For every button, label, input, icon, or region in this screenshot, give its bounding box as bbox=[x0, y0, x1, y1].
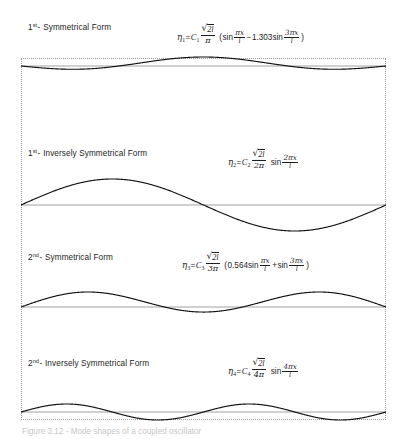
radical-sign-icon: √ bbox=[207, 252, 213, 261]
row-4-label-text: Inversely Symmetrical Form bbox=[45, 359, 149, 368]
row-2-dash: - bbox=[37, 149, 41, 158]
fraction-numerator-2a: 2πx bbox=[282, 154, 297, 162]
curve-path-1 bbox=[21, 57, 386, 69]
row-3-ordinal-suffix: nd bbox=[33, 252, 39, 258]
row-4-dash: - bbox=[39, 359, 43, 368]
row-label-4: 2nd- Inversely Symmetrical Form bbox=[28, 358, 149, 368]
radical-sign-icon: √ bbox=[202, 24, 208, 33]
mode-shape-curve-2 bbox=[21, 168, 386, 244]
trig-fn-4a: sin bbox=[271, 367, 281, 376]
row-label-2: 1st- Inversely Symmetrical Form bbox=[28, 148, 147, 158]
radicand-1: 2l bbox=[207, 24, 215, 34]
fraction-denominator-1: π bbox=[201, 35, 216, 45]
mode-shape-curve-4 bbox=[21, 392, 386, 432]
radical-4: √2l bbox=[253, 358, 266, 368]
fraction-denominator-3b: l bbox=[289, 265, 304, 274]
figure-caption: Figure 3.12 - Mode shapes of a coupled o… bbox=[22, 427, 201, 436]
radicand-3: 2l bbox=[212, 252, 220, 262]
fraction-1b: 3πxl bbox=[283, 29, 301, 45]
trig-fn-1b: sin bbox=[272, 33, 282, 42]
formula-eta-3: η3=C3√2l3π (0.564sinπxl+sin3πxl) bbox=[182, 252, 309, 274]
radical-1: √2l bbox=[202, 24, 215, 34]
fraction-numerator-3a: πx bbox=[260, 257, 271, 265]
fraction-denominator-4: 4π bbox=[252, 369, 267, 379]
fraction-numerator-1a: πx bbox=[234, 29, 245, 37]
fraction-numerator-2: √2l bbox=[252, 149, 267, 160]
fraction-1: √2lπ bbox=[199, 24, 216, 45]
row-label-1: 1st- Symmetrical Form bbox=[28, 22, 111, 32]
mode-shape-svg-1 bbox=[21, 52, 386, 86]
fraction-4a: 4πxl bbox=[281, 363, 299, 379]
radical-sign-icon: √ bbox=[253, 358, 259, 367]
fraction-denominator-4a: l bbox=[282, 371, 297, 380]
fraction-4: √2l4π bbox=[250, 358, 267, 379]
radical-3: √2l bbox=[207, 252, 220, 262]
fraction-numerator-4a: 4πx bbox=[282, 363, 297, 371]
fraction-numerator-1: √2l bbox=[201, 24, 216, 35]
mode-shape-svg-2 bbox=[21, 168, 386, 244]
formula-eta-4: η4=C4√2l4π sin4πxl bbox=[228, 358, 299, 380]
fraction-numerator-4: √2l bbox=[252, 358, 267, 369]
row-1-label-text: Symmetrical Form bbox=[43, 23, 111, 32]
trig-fn-3b: sin bbox=[277, 261, 287, 270]
row-4-ordinal-suffix: nd bbox=[33, 358, 39, 364]
fraction-denominator-1b: l bbox=[284, 37, 299, 46]
mode-shape-curve-3 bbox=[21, 282, 386, 334]
term-coefficient-3a: 0.564 bbox=[228, 261, 249, 270]
fraction-2: √2l2π bbox=[250, 149, 267, 170]
fraction-3a: πxl bbox=[258, 257, 271, 273]
radicand-2: 2l bbox=[258, 149, 266, 159]
trig-fn-2a: sin bbox=[271, 158, 281, 167]
row-3-label-text: Symmetrical Form bbox=[45, 253, 113, 262]
trig-fn-1a: sin bbox=[223, 33, 233, 42]
figure-mode-shapes: 1st- Symmetrical Form η1=C1√2lπ (sinπxl−… bbox=[0, 0, 406, 439]
fraction-denominator-3: 3π bbox=[206, 263, 221, 273]
fraction-numerator-3: √2l bbox=[206, 252, 221, 263]
row-label-3: 2nd- Symmetrical Form bbox=[28, 252, 113, 262]
radical-2: √2l bbox=[253, 149, 266, 159]
row-2-label-text: Inversely Symmetrical Form bbox=[43, 149, 147, 158]
curve-path-3 bbox=[21, 292, 386, 312]
mode-shape-curve-1 bbox=[21, 52, 386, 86]
fraction-3: √2l3π bbox=[204, 252, 221, 273]
row-1-dash: - bbox=[37, 23, 41, 32]
term-coefficient-1b: 1.303 bbox=[252, 33, 273, 42]
mode-shape-svg-3 bbox=[21, 282, 386, 334]
fraction-3b: 3πxl bbox=[288, 257, 306, 273]
trig-fn-3a: sin bbox=[248, 261, 258, 270]
row-3-dash: - bbox=[39, 253, 43, 262]
fraction-denominator-3a: l bbox=[260, 265, 271, 274]
radicand-4: 2l bbox=[258, 358, 266, 368]
radical-sign-icon: √ bbox=[253, 149, 259, 158]
fraction-1a: πxl bbox=[233, 29, 246, 45]
fraction-numerator-1b: 3πx bbox=[284, 29, 299, 37]
mode-shape-svg-4 bbox=[21, 392, 386, 432]
fraction-denominator-1a: l bbox=[234, 37, 245, 46]
formula-eta-1: η1=C1√2lπ (sinπxl−1.303sin3πxl) bbox=[177, 24, 304, 46]
fraction-numerator-3b: 3πx bbox=[289, 257, 304, 265]
